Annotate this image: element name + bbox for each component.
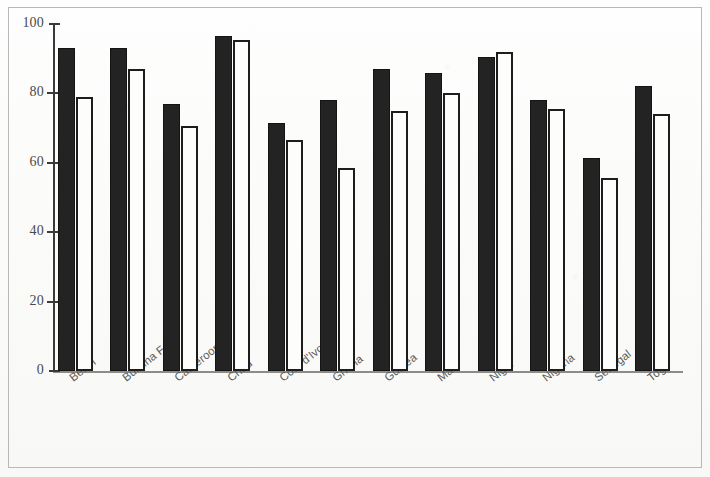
- bar-series-2-chad: [233, 40, 250, 371]
- bar-group: [215, 370, 250, 371]
- bar-series-2-ghana: [338, 168, 355, 371]
- y-tick-label-20: 20: [4, 293, 44, 309]
- y-tick-label-100: 100: [4, 15, 44, 31]
- bar-group: [530, 370, 565, 371]
- bar-series-1-chad: [215, 36, 232, 371]
- bar-series-2-burkina-faso: [128, 69, 145, 371]
- bar-group: [58, 370, 93, 371]
- bar-group: [425, 370, 460, 371]
- bar-series-2-mali: [443, 93, 460, 371]
- bar-group: [320, 370, 355, 371]
- bar-series-1-ghana: [320, 100, 337, 371]
- bar-series-1-togo: [635, 86, 652, 371]
- bar-series-1-guinea: [373, 69, 390, 371]
- chart-figure: 100806040200 BeninBurkina FasoCameroonCh…: [0, 0, 710, 477]
- y-tick-label-80: 80: [4, 84, 44, 100]
- bar-series-1-benin: [58, 48, 75, 371]
- bar-series-1-cote-d-ivoire: [268, 123, 285, 371]
- bar-series-2-cote-d-ivoire: [286, 140, 303, 371]
- y-tick-label-0: 0: [4, 362, 44, 378]
- bar-series-1-cameroon: [163, 104, 180, 371]
- bar-group: [163, 370, 198, 371]
- bar-series-2-nigeria: [548, 109, 565, 371]
- bar-group: [478, 370, 513, 371]
- bar-series-2-togo: [653, 114, 670, 371]
- bar-series-2-niger: [496, 52, 513, 371]
- bar-series-1-nigeria: [530, 100, 547, 371]
- bar-series-2-guinea: [391, 111, 408, 371]
- bar-group: [110, 370, 145, 371]
- x-axis-category-labels: BeninBurkina FasoCameroonChadCote d'Ivoi…: [53, 374, 683, 474]
- bar-series-1-burkina-faso: [110, 48, 127, 371]
- bar-series-1-senegal: [583, 158, 600, 371]
- bar-group: [268, 370, 303, 371]
- y-axis-labels: 100806040200: [0, 0, 44, 477]
- bar-series-2-cameroon: [181, 126, 198, 371]
- bar-group: [373, 370, 408, 371]
- bar-series-2-senegal: [601, 178, 618, 371]
- bar-series-2-benin: [76, 97, 93, 371]
- bar-series-1-niger: [478, 57, 495, 371]
- bar-group: [583, 370, 618, 371]
- bar-series-1-mali: [425, 73, 442, 371]
- bar-group: [635, 370, 670, 371]
- y-tick-label-40: 40: [4, 223, 44, 239]
- y-tick-label-60: 60: [4, 154, 44, 170]
